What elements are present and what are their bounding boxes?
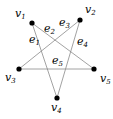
edge-label-e1-subscript: 1 <box>36 39 40 47</box>
pentagram-graph: e1e2e3e4e5v1v2v3v4v5 <box>0 0 113 119</box>
vertex-label-v4: v4 <box>51 101 62 115</box>
vertex-v1 <box>29 20 34 25</box>
edge-label-e5: e5 <box>52 54 64 68</box>
vertex-v2 <box>77 17 82 22</box>
vertex-label-v1: v1 <box>15 7 26 21</box>
edge-e4 <box>57 20 80 98</box>
vertex-v4 <box>54 95 59 100</box>
vertex-label-v2: v2 <box>85 3 96 17</box>
edge-label-e2-subscript: 2 <box>50 28 56 36</box>
edge-label-e2: e2 <box>44 22 56 36</box>
edge-label-e3: e3 <box>59 16 71 30</box>
edge-label-e3-subscript: 3 <box>66 22 71 30</box>
vertex-label-v2-subscript: 2 <box>90 9 96 17</box>
edge-label-e4: e4 <box>77 35 88 49</box>
vertex-v3 <box>16 66 21 71</box>
edge-label-e4-subscript: 4 <box>83 41 88 49</box>
vertex-label-v5-subscript: 5 <box>106 78 111 86</box>
vertex-label-v3-subscript: 3 <box>11 77 16 85</box>
vertex-label-v4-subscript: 4 <box>56 107 61 115</box>
vertex-v5 <box>91 66 96 71</box>
vertex-label-v5: v5 <box>100 72 111 86</box>
vertex-label-v1-subscript: 1 <box>21 13 25 21</box>
vertex-label-v3: v3 <box>5 71 16 85</box>
edge-label-e5-subscript: 5 <box>59 60 64 68</box>
edge-label-e1: e1 <box>29 33 40 47</box>
